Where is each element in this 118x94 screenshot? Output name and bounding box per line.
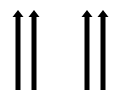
up-arrow-icon: [82, 10, 93, 90]
arrows-diagram: [0, 0, 118, 94]
up-arrow-icon: [98, 10, 109, 90]
arrow-pair-left: [13, 10, 40, 90]
up-arrow-icon: [13, 10, 24, 90]
arrow-pair-right: [82, 10, 109, 90]
up-arrow-icon: [29, 10, 40, 90]
